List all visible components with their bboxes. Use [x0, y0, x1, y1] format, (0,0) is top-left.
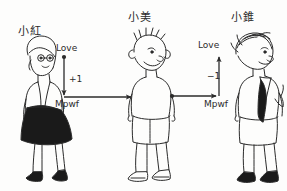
- character-name-middle: 小美: [128, 8, 152, 24]
- plaintext-label-right: Love: [198, 40, 219, 50]
- diagram-artwork: [0, 0, 287, 191]
- ciphertext-label-right: Mpwf: [204, 99, 228, 109]
- arrow-encrypt-down: [62, 55, 66, 95]
- encrypt-shift-label: +1: [69, 74, 82, 84]
- plaintext-label-left: Love: [56, 43, 77, 53]
- decrypt-shift-label: −1: [207, 71, 220, 81]
- character-name-left: 小紅: [18, 22, 42, 38]
- character-name-right: 小錐: [231, 8, 255, 24]
- cipher-diagram: 小紅 小美 小錐 Love Mpwf Love Mpwf +1 −1: [0, 0, 287, 191]
- arrow-transmit-middle-to-right: [170, 94, 216, 98]
- figure-middle-boy: [128, 28, 175, 181]
- figure-right-boy: [231, 33, 283, 183]
- ciphertext-label-left: Mpwf: [55, 99, 79, 109]
